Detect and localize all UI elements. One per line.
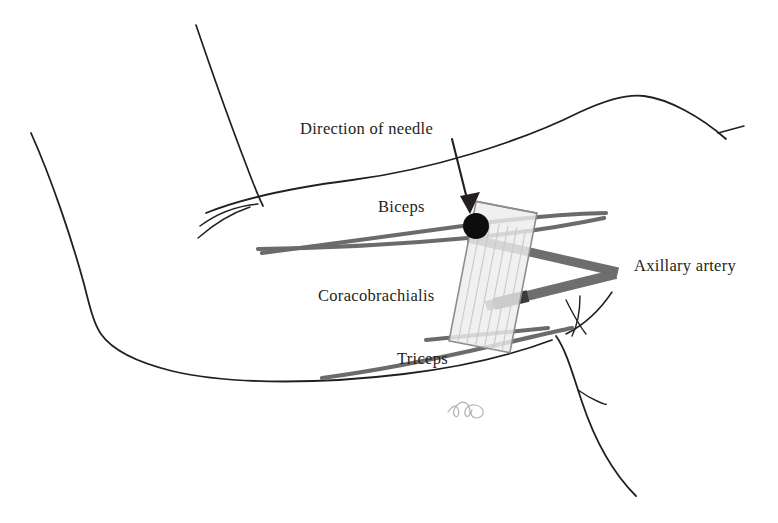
neck-contour-line xyxy=(196,25,263,206)
anatomy-illustration: Direction of needle Biceps Coracobrachia… xyxy=(0,0,778,523)
needle-arrow-shaft xyxy=(452,139,468,203)
shoulder-branch-tick xyxy=(718,126,744,133)
needle-target-point xyxy=(463,213,489,239)
chest-wall-contour xyxy=(556,336,636,496)
artist-signature xyxy=(448,402,483,418)
coracobrachialis-border-line xyxy=(258,218,604,249)
label-coracobrachialis: Coracobrachialis xyxy=(318,286,435,305)
illustration-canvas: Direction of needle Biceps Coracobrachia… xyxy=(0,0,778,523)
signature-flourish xyxy=(448,402,483,418)
label-biceps: Biceps xyxy=(378,197,425,216)
label-axillary-artery: Axillary artery xyxy=(634,256,737,275)
label-needle-direction: Direction of needle xyxy=(300,119,433,138)
label-triceps: Triceps xyxy=(397,349,448,368)
